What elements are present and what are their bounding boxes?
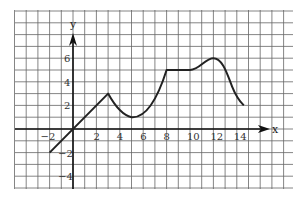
x-tick-label: 4 bbox=[117, 131, 123, 142]
x-axis-label: x bbox=[272, 123, 279, 136]
x-tick-label: 6 bbox=[140, 131, 146, 142]
x-tick-label: 8 bbox=[164, 131, 170, 142]
y-tick-label: 4 bbox=[64, 77, 70, 88]
y-tick-label: −4 bbox=[58, 171, 73, 182]
x-tick-label: 10 bbox=[187, 131, 200, 142]
y-tick-label: 6 bbox=[64, 53, 70, 64]
x-tick-label: 2 bbox=[93, 131, 99, 142]
function-graph: y x −22468101214642−2−4 bbox=[0, 0, 304, 200]
axes bbox=[15, 33, 270, 189]
y-tick-label: 2 bbox=[64, 100, 70, 111]
x-tick-label: 14 bbox=[234, 131, 247, 142]
y-axis-label: y bbox=[69, 18, 77, 31]
x-tick-label: 12 bbox=[210, 131, 223, 142]
x-tick-label: −2 bbox=[41, 131, 56, 142]
y-tick-label: −2 bbox=[58, 148, 73, 159]
